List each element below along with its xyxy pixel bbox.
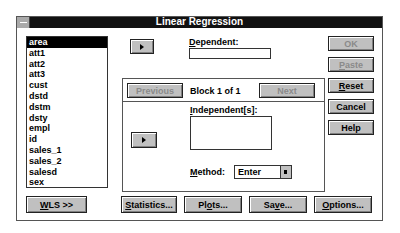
block-status: Block 1 of 1	[190, 86, 241, 96]
plots-button[interactable]: Plots...	[184, 196, 242, 213]
independent-field[interactable]	[190, 116, 272, 150]
variable-item[interactable]: sales_1	[27, 145, 107, 156]
paste-button[interactable]: Paste	[328, 57, 374, 72]
reset-button[interactable]: Reset	[328, 78, 374, 93]
variable-item[interactable]: id	[27, 134, 107, 145]
variable-list[interactable]: areaatt1att2att3custdstddstmdstyemplidsa…	[26, 36, 108, 188]
linear-regression-dialog: Linear Regression areaatt1att2att3custds…	[16, 16, 383, 221]
variable-item[interactable]: att1	[27, 48, 107, 59]
title-bar: Linear Regression	[17, 17, 382, 28]
variable-item[interactable]: area	[27, 37, 107, 48]
dropdown-arrow-icon[interactable]	[280, 166, 291, 178]
previous-button[interactable]: Previous	[127, 83, 183, 98]
move-to-independent-button[interactable]	[131, 132, 157, 148]
variable-item[interactable]: salesd	[27, 167, 107, 178]
variable-item[interactable]: dsty	[27, 113, 107, 124]
help-button[interactable]: Help	[328, 120, 374, 135]
block-panel: Previous Block 1 of 1 Next Independent[s…	[122, 78, 325, 192]
method-label: Method:	[190, 167, 225, 177]
cancel-button[interactable]: Cancel	[328, 99, 374, 114]
variable-item[interactable]: cust	[27, 80, 107, 91]
next-button[interactable]: Next	[259, 83, 315, 98]
variable-item[interactable]: dstm	[27, 102, 107, 113]
ok-button[interactable]: OK	[328, 36, 374, 51]
statistics-button[interactable]: Statistics...	[121, 196, 177, 213]
block-divider	[123, 101, 324, 102]
dependent-field[interactable]	[189, 48, 271, 59]
variable-item[interactable]: att3	[27, 69, 107, 80]
move-to-dependent-button[interactable]	[130, 39, 154, 54]
variable-item[interactable]: dstd	[27, 91, 107, 102]
variable-item[interactable]: att2	[27, 59, 107, 70]
variable-item[interactable]: empl	[27, 123, 107, 134]
variable-item[interactable]: sex	[27, 177, 107, 188]
independent-label: Independent[s]:	[190, 105, 258, 115]
variable-item[interactable]: sales_2	[27, 156, 107, 167]
window-title: Linear Regression	[17, 16, 382, 27]
dependent-label: Dependent:	[189, 37, 239, 47]
options-button[interactable]: Options...	[314, 196, 372, 213]
save-button[interactable]: Save...	[249, 196, 307, 213]
method-dropdown[interactable]: Enter	[234, 165, 292, 179]
wls-button[interactable]: WLS >>	[26, 196, 87, 213]
method-value: Enter	[238, 167, 261, 177]
